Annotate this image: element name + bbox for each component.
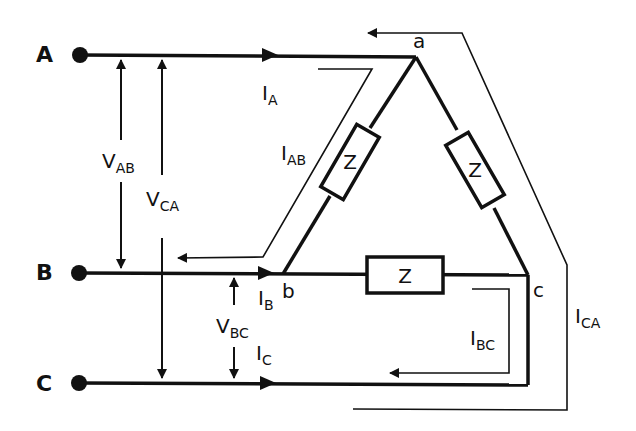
node-label-c: c — [533, 278, 544, 302]
voltage-label-vab: VAB — [102, 149, 135, 176]
current-label-ibc: IBC — [470, 326, 495, 353]
voltage-label-vbc: VBC — [216, 314, 249, 341]
arrow-right-icon — [260, 376, 276, 390]
current-label-iab: IAB — [281, 141, 306, 168]
impedance-label-bc: Z — [398, 264, 412, 288]
line-a — [80, 48, 416, 62]
impedance-label-ab: Z — [343, 150, 357, 174]
current-label-ia: IA — [262, 81, 278, 108]
delta-circuit-diagram: A B C Z Z Z a — [0, 0, 636, 431]
node-label-b: b — [282, 279, 295, 303]
terminal-label-b: B — [36, 260, 53, 285]
branch-ca: Z — [416, 57, 528, 275]
current-path-ica — [353, 33, 567, 410]
current-label-ib: IB — [258, 286, 274, 313]
branch-bc: Z — [367, 257, 443, 293]
line-b — [79, 266, 528, 280]
arrow-right-icon — [258, 266, 274, 280]
arrow-right-icon — [262, 48, 278, 62]
impedance-label-ca: Z — [468, 158, 482, 182]
current-label-ica: ICA — [575, 304, 601, 331]
terminal-label-a: A — [36, 42, 53, 67]
voltage-label-vca: VCA — [146, 187, 179, 214]
current-path-ibc — [390, 289, 509, 373]
current-label-ic: IC — [256, 341, 272, 368]
terminal-label-c: C — [36, 371, 52, 396]
